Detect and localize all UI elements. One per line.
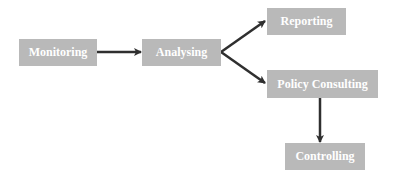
node-label: Controlling [295,149,354,164]
arrow-analysing-to-reporting [221,21,265,52]
node-label: Reporting [281,14,333,29]
node-label: Monitoring [29,45,88,60]
node-controlling: Controlling [285,143,365,170]
node-label: Analysing [156,45,207,60]
arrow-analysing-to-policy [221,52,265,83]
node-policy-consulting: Policy Consulting [267,70,378,98]
node-analysing: Analysing [142,39,221,66]
node-reporting: Reporting [267,8,346,35]
node-monitoring: Monitoring [19,39,97,66]
node-label: Policy Consulting [277,77,367,92]
